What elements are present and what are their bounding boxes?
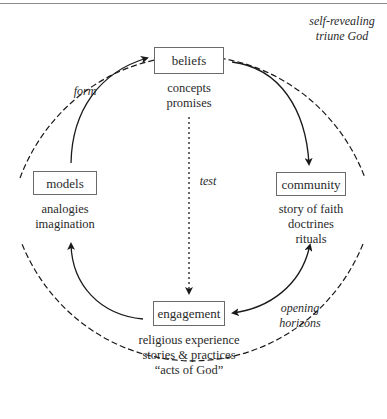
detail-concepts: concepts [139,81,239,96]
node-beliefs: beliefs [154,47,224,74]
opening-horizons-line1: opening [272,301,328,316]
detail-religious-experience: religious experience [129,333,249,348]
node-engagement-details: religious experience stories & practices… [129,333,249,378]
opening-horizons-line2: horizons [272,316,328,331]
node-beliefs-details: concepts promises [139,81,239,111]
node-community-label: community [281,177,340,192]
arrow-beliefs-to-community [232,62,309,164]
detail-stories-practices: stories & practices [129,348,249,363]
node-community: community [276,172,346,196]
arrow-engagement-to-models [71,244,143,319]
enclosure-label: self-revealing triune God [302,14,382,44]
node-models: models [33,171,97,195]
detail-story-of-faith: story of faith [261,202,361,217]
node-engagement-label: engagement [158,306,221,321]
enclosure-label-line1: self-revealing [302,14,382,29]
node-community-details: story of faith doctrines rituals [261,202,361,247]
node-models-label: models [46,176,84,191]
detail-analogies: analogies [15,202,115,217]
node-beliefs-label: beliefs [172,53,207,68]
edge-label-test: test [195,174,221,189]
detail-promises: promises [139,96,239,111]
arrow-models-to-beliefs [71,58,147,163]
detail-acts-of-god: “acts of God” [129,363,249,378]
edge-label-opening-horizons: opening horizons [272,301,328,331]
enclosure-label-line2: triune God [302,29,382,44]
detail-rituals: rituals [261,232,361,247]
node-models-details: analogies imagination [15,202,115,232]
edge-label-form: form [70,84,100,99]
detail-imagination: imagination [15,217,115,232]
detail-doctrines: doctrines [261,217,361,232]
node-engagement: engagement [153,301,225,326]
